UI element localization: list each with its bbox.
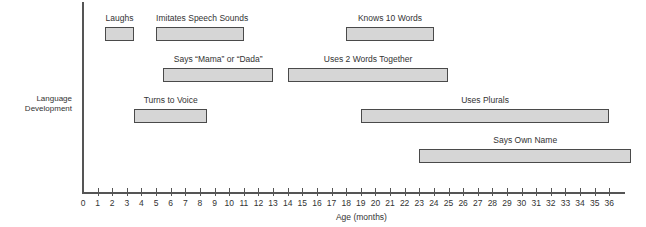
x-tick [258, 188, 259, 196]
x-tick [492, 188, 493, 196]
x-tick [317, 188, 318, 196]
x-tick [361, 188, 362, 196]
x-tick [405, 188, 406, 196]
x-tick [156, 188, 157, 196]
x-tick [463, 188, 464, 196]
milestone-bar [134, 109, 207, 123]
x-tick [522, 188, 523, 196]
milestone-label: Laughs [105, 13, 134, 23]
x-tick [229, 188, 230, 196]
milestone-bar [361, 109, 610, 123]
x-tick [273, 188, 274, 196]
x-axis-line [82, 192, 625, 194]
x-tick [551, 188, 552, 196]
x-tick [288, 188, 289, 196]
x-tick [507, 188, 508, 196]
x-axis-label: Age (months) [336, 212, 387, 222]
y-axis-label-line2: Development [0, 104, 72, 114]
y-axis-line [82, 2, 84, 193]
milestone-bar [288, 68, 449, 82]
x-tick [536, 188, 537, 196]
milestone-bar [105, 27, 134, 41]
x-tick [595, 188, 596, 196]
x-tick [449, 188, 450, 196]
milestone-bar [163, 68, 273, 82]
x-tick [565, 188, 566, 196]
x-tick [200, 188, 201, 196]
x-tick [112, 188, 113, 196]
milestone-bar [419, 149, 631, 163]
milestone-label: Imitates Speech Sounds [156, 13, 244, 23]
milestone-label: Says Own Name [419, 135, 631, 145]
x-tick [215, 188, 216, 196]
x-tick [609, 188, 610, 196]
x-tick [434, 188, 435, 196]
x-tick [171, 188, 172, 196]
milestone-label: Uses Plurals [361, 95, 610, 105]
milestone-bar [346, 27, 434, 41]
x-tick [478, 188, 479, 196]
x-tick [244, 188, 245, 196]
y-axis-label-line1: Language [0, 94, 72, 104]
x-tick [419, 188, 420, 196]
x-tick [346, 188, 347, 196]
milestone-bar [156, 27, 244, 41]
milestone-label: Knows 10 Words [346, 13, 434, 23]
x-tick [332, 188, 333, 196]
x-tick [127, 188, 128, 196]
gantt-chart: Language Development 0123456789101112131… [0, 0, 646, 227]
x-tick [185, 188, 186, 196]
x-tick-label: 36 [599, 198, 619, 208]
x-tick [141, 188, 142, 196]
milestone-label: Says “Mama” or “Dada” [163, 54, 273, 64]
x-tick [302, 188, 303, 196]
milestone-label: Uses 2 Words Together [288, 54, 449, 64]
x-tick [580, 188, 581, 196]
milestone-label: Turns to Voice [134, 95, 207, 105]
x-tick [390, 188, 391, 196]
x-tick [375, 188, 376, 196]
x-tick [98, 188, 99, 196]
y-axis-label: Language Development [0, 94, 72, 114]
